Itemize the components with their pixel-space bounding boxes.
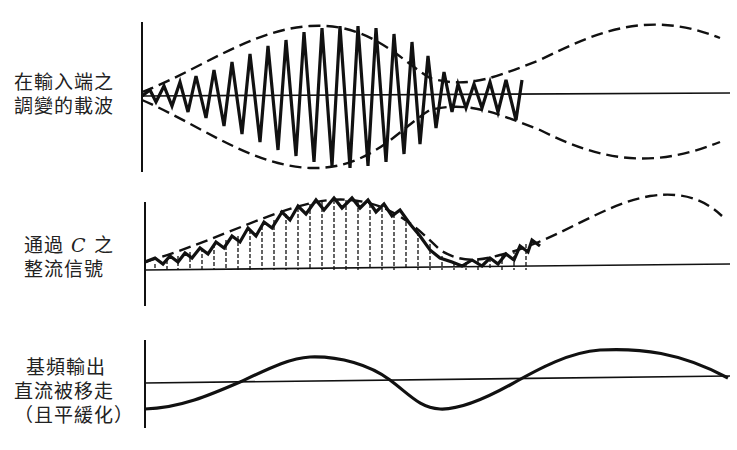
- panel-2-rectified-signal: [145, 198, 540, 266]
- waveform-diagram: [0, 0, 737, 450]
- panel-1-carrier: [142, 26, 522, 168]
- panel-1-axes: [142, 22, 730, 172]
